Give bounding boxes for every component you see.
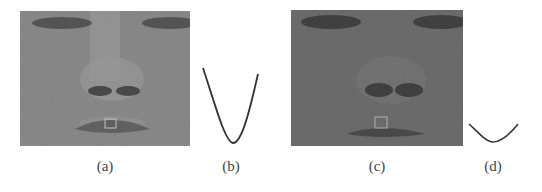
face-image-a [20,11,190,146]
caption-b: (b) [211,158,251,175]
caption-c: (c) [357,158,397,175]
curve-plot-d [466,120,522,146]
face-image-c [291,10,463,146]
caption-a: (a) [85,158,125,175]
caption-d: (d) [473,158,513,175]
curve-plot-b [200,64,262,146]
